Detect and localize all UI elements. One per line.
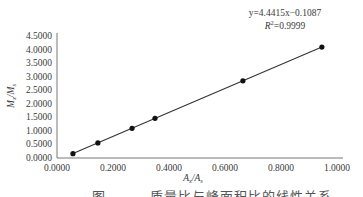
regression-equation: y=4.4415x−0.1087 bbox=[249, 8, 322, 18]
x-tick-label: 1.0000 bbox=[324, 163, 350, 173]
data-point bbox=[319, 44, 324, 49]
x-tick-label: 0.2000 bbox=[100, 163, 126, 173]
y-tick-label: 2.5000 bbox=[26, 85, 52, 95]
y-tick-label: 3.5000 bbox=[26, 58, 52, 68]
figure-caption: 图 质量比与峰面积比的线性关系 bbox=[0, 186, 363, 197]
data-point bbox=[70, 151, 75, 156]
y-tick-label: 0.5000 bbox=[26, 139, 52, 149]
y-tick-label: 3.0000 bbox=[26, 72, 52, 82]
y-axis-title: Mx/Ms bbox=[6, 84, 17, 109]
x-tick-label: 0.4000 bbox=[156, 163, 182, 173]
r-squared: R2=0.9999 bbox=[264, 19, 306, 31]
x-tick-label: 0.8000 bbox=[268, 163, 294, 173]
regression-line bbox=[73, 47, 322, 154]
data-point bbox=[240, 78, 245, 83]
data-point bbox=[152, 116, 157, 121]
y-tick-label: 4.5000 bbox=[26, 31, 52, 41]
x-tick-label: 0.6000 bbox=[212, 163, 238, 173]
y-tick-label: 4.0000 bbox=[26, 45, 52, 55]
x-tick-label: 0.0000 bbox=[44, 163, 70, 173]
figure-label: 图 bbox=[92, 186, 105, 197]
y-tick-label: 1.0000 bbox=[26, 126, 52, 136]
data-point bbox=[95, 140, 100, 145]
y-tick-label: 1.5000 bbox=[26, 112, 52, 122]
figure-caption-text: 质量比与峰面积比的线性关系 bbox=[150, 186, 332, 197]
x-axis-title: Ax/As bbox=[182, 173, 203, 184]
y-tick-labels: 0.00000.50001.00001.50002.00002.50003.00… bbox=[26, 31, 52, 163]
data-point bbox=[129, 126, 134, 131]
x-tick-labels: 0.00000.20000.40000.60000.80001.0000 bbox=[44, 163, 350, 173]
chart: y=4.4415x−0.1087 R2=0.9999 0.00000.50001… bbox=[0, 0, 363, 197]
y-tick-label: 0.0000 bbox=[26, 153, 52, 163]
y-tick-label: 2.0000 bbox=[26, 99, 52, 109]
